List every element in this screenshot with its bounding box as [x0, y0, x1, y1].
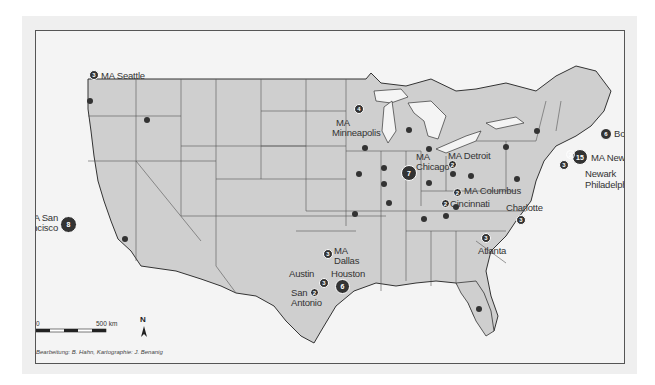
marker-cincinnati[interactable]: 2 [441, 199, 450, 208]
marker-atlanta[interactable]: 3 [481, 233, 491, 243]
marker-newark[interactable]: 2 [566, 150, 575, 159]
marker-charlotte[interactable]: 3 [516, 215, 526, 225]
marker-austin[interactable]: 3 [319, 278, 329, 288]
location-dot [352, 211, 358, 217]
location-dot [503, 144, 509, 150]
marker-chicago[interactable]: 7 [401, 165, 417, 181]
scale-bar [36, 329, 106, 332]
marker-san-francisco[interactable]: 8 [60, 216, 77, 233]
marker-houston[interactable]: 6 [335, 279, 350, 294]
location-dot [443, 213, 449, 219]
location-dot [87, 98, 93, 104]
label-san-antonio: San Antonio [291, 288, 322, 308]
location-dot [144, 117, 150, 123]
location-dot [122, 236, 128, 242]
location-dot [468, 173, 474, 179]
marker-minneapolis[interactable]: 4 [354, 104, 364, 114]
label-newark: Newark [585, 169, 616, 179]
marker-philadelphia[interactable]: 3 [559, 160, 569, 170]
north-label: N [140, 315, 146, 324]
label-seattle: MA Seattle [101, 71, 145, 81]
marker-detroit[interactable]: 2 [448, 160, 457, 169]
marker-columbus[interactable]: 2 [453, 188, 462, 197]
location-dot [386, 200, 392, 206]
location-dot [426, 180, 432, 186]
map-frame: 3 MA Seattle 8 MA San Francisco 4 MA Min… [35, 30, 625, 364]
label-line: Antonio [291, 298, 322, 308]
marker-boston[interactable]: 6 [600, 128, 612, 140]
label-houston: Houston [331, 269, 365, 279]
label-minneapolis: MA Minneapolis [332, 118, 381, 138]
label-boston: Boston [614, 129, 625, 139]
location-dot [406, 127, 412, 133]
location-dot [534, 128, 540, 134]
label-dallas: MA Dallas [334, 246, 359, 266]
location-dot [381, 181, 387, 187]
location-dot [356, 171, 362, 177]
marker-dallas[interactable]: 3 [323, 249, 333, 259]
scale-distance-label: 500 km [96, 320, 117, 327]
label-line: Dallas [334, 256, 359, 266]
label-charlotte: Charlotte [506, 203, 543, 213]
location-dot [421, 216, 427, 222]
label-columbus: MA Columbus [464, 186, 521, 196]
location-dot [381, 165, 387, 171]
label-austin: Austin [289, 269, 314, 279]
label-line: Minneapolis [332, 128, 381, 138]
location-dot [450, 171, 456, 177]
label-chicago: MA Chicago [416, 152, 449, 172]
marker-seattle[interactable]: 3 [89, 70, 99, 80]
location-dot [514, 176, 520, 182]
scale-zero-label: 0 [36, 320, 40, 327]
label-line: Francisco [35, 223, 58, 233]
label-detroit: MA Detroit [448, 151, 490, 161]
north-arrow-icon [141, 326, 147, 337]
label-new-york: MA New York [591, 153, 625, 163]
label-line: Chicago [416, 162, 449, 172]
location-dot [426, 146, 432, 152]
map-credit: Bearbeitung: B. Hahn, Kartographie: J. B… [36, 349, 163, 355]
location-dot [453, 204, 459, 210]
label-philadelphia: Philadelphia [585, 180, 625, 190]
location-dot [362, 145, 368, 151]
label-san-francisco: MA San Francisco [35, 213, 58, 233]
location-dot [476, 306, 482, 312]
label-atlanta: Atlanta [478, 246, 506, 256]
